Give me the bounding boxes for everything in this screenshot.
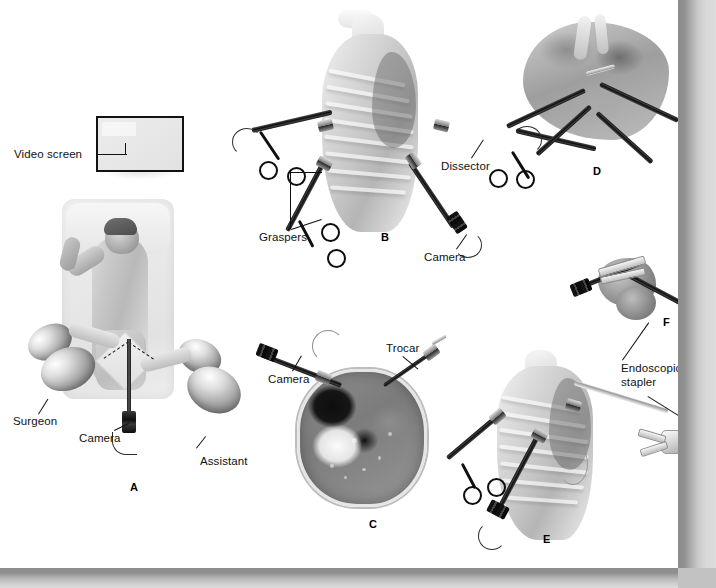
camera-head-b xyxy=(446,211,468,235)
camera-cable-e xyxy=(478,522,506,550)
tissue-lobe-f xyxy=(616,286,656,320)
assistant-leader xyxy=(196,436,206,448)
instrument-cable-left-b xyxy=(232,128,262,156)
trocar-valve-c xyxy=(431,334,447,345)
figure-root: Video screen xyxy=(0,0,716,588)
assistant-label: Assistant xyxy=(200,455,248,469)
video-screen-label: Video screen xyxy=(14,148,82,162)
page-shadow-corner xyxy=(678,568,716,588)
camera-label-a: Camera xyxy=(79,432,121,446)
ct-cross-section xyxy=(297,369,427,507)
page-shadow-bottom xyxy=(0,568,678,588)
stapler-hub-f xyxy=(569,278,592,298)
graspers-leader-upper xyxy=(290,171,291,229)
graspers-leader-bend xyxy=(290,172,322,173)
grasper-ring-a-e xyxy=(463,486,482,505)
dissector-ring-b-b xyxy=(516,170,535,189)
endoscopic-stapler-line2-f: stapler xyxy=(621,376,656,388)
trocar-label: Trocar xyxy=(386,342,419,356)
light-cable-e xyxy=(558,443,588,485)
dissector-label: Dissector xyxy=(441,160,490,174)
dissector-leader xyxy=(471,140,484,159)
camera-label-c: Camera xyxy=(268,373,310,387)
rib-cage-b xyxy=(322,34,418,232)
page-sheet: Video screen xyxy=(0,0,678,568)
grasper-ring-upper-a-b xyxy=(259,161,278,180)
grasper-ring-lower-b-b xyxy=(327,249,346,268)
grasper-shaft-e xyxy=(446,417,497,461)
panel-letter-d: D xyxy=(593,165,601,177)
panel-letter-f: F xyxy=(663,316,670,328)
endoscopic-stapler-line1-f: Endoscopic xyxy=(621,362,681,374)
camera-cable-c xyxy=(312,330,344,362)
panel-letter-e: E xyxy=(543,533,551,545)
surgeon-leader xyxy=(38,399,48,415)
camera-head-a xyxy=(122,411,136,433)
page-shadow-right xyxy=(678,0,716,588)
patient-hair xyxy=(104,218,137,235)
monitor-glare xyxy=(102,122,136,136)
camera-label-b: Camera xyxy=(424,251,466,265)
grasper-handle-e xyxy=(461,463,477,489)
grasper-ring-lower-a-b xyxy=(321,223,340,242)
dissector-ring-a-b xyxy=(489,169,508,188)
panel-letter-a: A xyxy=(130,481,138,493)
trocar-hub-right-b xyxy=(433,118,450,132)
panel-letter-b: B xyxy=(381,231,389,243)
endoscopic-stapler-leader-f xyxy=(622,322,649,360)
panel-letter-c: C xyxy=(369,518,377,530)
thorax-b xyxy=(322,34,418,232)
trocar-shaft-c xyxy=(383,352,431,387)
video-monitor xyxy=(96,116,184,172)
surgeon-label: Surgeon xyxy=(13,415,57,429)
grasper-handle-upper-b xyxy=(259,131,281,161)
stapler-jaw-lower-e xyxy=(639,441,668,457)
graspers-label: Graspers xyxy=(259,231,307,245)
video-screen-leader xyxy=(96,154,127,155)
graspers-leader-lower xyxy=(291,219,322,230)
monitor-shadow xyxy=(100,170,180,180)
video-screen-leader-bend xyxy=(125,143,126,155)
